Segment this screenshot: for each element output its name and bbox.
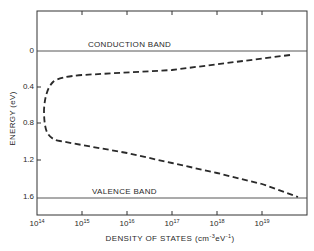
left-ticks [37, 87, 41, 160]
density-of-states-curve [44, 55, 298, 197]
top-ticks [82, 11, 262, 15]
y-tick-label: 1.2 [12, 155, 34, 164]
x-tick-label: 1018 [197, 218, 237, 228]
x-axis-label-unit: eV [215, 234, 226, 243]
x-tick-label: 1014 [17, 218, 57, 228]
y-axis-label: ENERGY (eV) [8, 89, 17, 149]
bottom-ticks [82, 211, 262, 215]
x-axis-label-close: ) [231, 234, 234, 243]
conduction-band-label: CONDUCTION BAND [88, 40, 171, 49]
chart-plot [0, 0, 314, 251]
valence-band-label: VALENCE BAND [92, 187, 157, 196]
tick-exponent: 14 [38, 218, 44, 224]
tick-exponent: 15 [83, 218, 89, 224]
tick-exponent: 19 [263, 218, 269, 224]
plot-frame [37, 11, 307, 215]
x-axis-label-text: DENSITY OF STATES (cm [105, 234, 209, 243]
x-tick-label: 1015 [62, 218, 102, 228]
tick-exponent: 16 [128, 218, 134, 224]
x-tick-label: 1016 [107, 218, 147, 228]
y-tick-label: 1.6 [12, 192, 34, 201]
x-axis-label: DENSITY OF STATES (cm-3eV-1) [60, 233, 280, 243]
tick-exponent: 17 [173, 218, 179, 224]
x-tick-label: 1017 [152, 218, 192, 228]
x-tick-label: 1019 [242, 218, 282, 228]
tick-exponent: 18 [218, 218, 224, 224]
y-tick-label: 0 [12, 46, 34, 55]
